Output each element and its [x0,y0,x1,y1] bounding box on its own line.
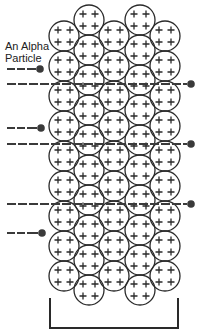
atom [99,261,129,291]
plus-charge-icon [131,221,138,228]
plus-charge-icon [105,189,112,196]
plus-charge-icon [55,27,62,34]
plus-charge-icon [156,87,163,94]
plus-charge-icon [143,113,150,120]
alpha-particle-icon [187,80,195,88]
plus-charge-icon [168,27,175,34]
plus-charge-icon [131,233,138,240]
plus-charge-icon [143,191,150,198]
alpha-particle-icon [187,200,195,208]
alpha-particle-path [7,65,44,73]
plus-charge-icon [105,27,112,34]
atom [99,201,129,231]
plus-charge-icon [131,173,138,180]
plus-charge-icon [131,71,138,78]
label-line-2: Particle [5,52,49,64]
plus-charge-icon [143,263,150,270]
plus-charge-icon [105,207,112,214]
plus-charge-icon [55,237,62,244]
plus-charge-icon [55,87,62,94]
alpha-particle-icon [187,140,195,148]
atom [150,141,180,171]
plus-charge-icon [67,249,74,256]
plus-charge-icon [156,147,163,154]
plus-charge-icon [67,57,74,64]
plus-charge-icon [67,87,74,94]
plus-charge-icon [67,147,74,154]
plus-charge-icon [105,117,112,124]
plus-charge-icon [105,99,112,106]
plus-charge-icon [80,113,87,120]
plus-charge-icon [156,57,163,64]
plus-charge-icon [55,57,62,64]
plus-charge-icon [143,221,150,228]
plus-charge-icon [80,71,87,78]
plus-charge-icon [168,147,175,154]
plus-charge-icon [67,177,74,184]
plus-charge-icon [156,129,163,136]
atom [150,21,180,51]
plus-charge-icon [80,11,87,18]
plus-charge-icon [67,207,74,214]
plus-charge-icon [143,281,150,288]
plus-charge-icon [168,207,175,214]
plus-charge-icon [92,23,99,30]
atom [150,201,180,231]
plus-charge-icon [55,99,62,106]
atom [99,81,129,111]
alpha-particle-path [7,124,45,132]
atom [99,51,129,81]
plus-charge-icon [92,41,99,48]
plus-charge-icon [80,101,87,108]
alpha-particle-paths [7,65,195,237]
plus-charge-icon [143,23,150,30]
plus-charge-icon [92,263,99,270]
atom-lattice [49,5,180,305]
plus-charge-icon [92,53,99,60]
plus-charge-icon [55,267,62,274]
plus-charge-icon [117,177,124,184]
plus-charge-icon [55,147,62,154]
plus-charge-icon [80,281,87,288]
plus-charge-icon [92,173,99,180]
plus-charge-icon [131,263,138,270]
plus-charge-icon [80,161,87,168]
plus-charge-icon [168,159,175,166]
plus-charge-icon [168,57,175,64]
plus-charge-icon [92,161,99,168]
plus-charge-icon [117,39,124,46]
plus-charge-icon [55,159,62,166]
plus-charge-icon [92,293,99,300]
atom [150,171,180,201]
plus-charge-icon [156,39,163,46]
plus-charge-icon [105,267,112,274]
plus-charge-icon [168,249,175,256]
plus-charge-icon [80,233,87,240]
plus-charge-icon [156,27,163,34]
plus-charge-icon [92,113,99,120]
plus-charge-icon [92,233,99,240]
plus-charge-icon [67,189,74,196]
alpha-particle-label: An Alpha Particle [5,40,49,64]
plus-charge-icon [131,161,138,168]
plus-charge-icon [105,177,112,184]
plus-charge-icon [55,69,62,76]
plus-charge-icon [67,117,74,124]
plus-charge-icon [105,57,112,64]
plus-charge-icon [117,249,124,256]
plus-charge-icon [131,23,138,30]
plus-charge-icon [131,293,138,300]
plus-charge-icon [117,267,124,274]
plus-charge-icon [143,101,150,108]
label-line-1: An Alpha [5,40,49,52]
plus-charge-icon [55,207,62,214]
plus-charge-icon [156,99,163,106]
plus-charge-icon [131,131,138,138]
plus-charge-icon [55,249,62,256]
plus-charge-icon [168,129,175,136]
atom [150,51,180,81]
plus-charge-icon [156,207,163,214]
plus-charge-icon [117,129,124,136]
alpha-particle-icon [37,124,45,132]
plus-charge-icon [143,293,150,300]
